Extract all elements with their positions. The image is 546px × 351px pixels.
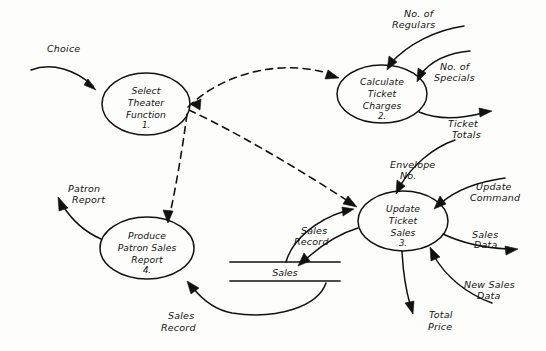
label-new-sales-data-line1: New Sales	[464, 279, 515, 290]
process-1-line3: Function	[126, 109, 166, 120]
process-1-line2: Theater	[128, 97, 166, 108]
process-2-line3: Charges	[363, 100, 402, 111]
process-3-number: 3.	[399, 238, 407, 248]
label-envelope-no: Envelope No.	[390, 159, 439, 181]
process-4-number: 4.	[143, 265, 151, 275]
flow-update-to-store-arrowhead	[298, 253, 310, 266]
label-no-of-specials: No. of Specials	[434, 61, 475, 83]
label-ticket-totals: Ticket Totals	[448, 118, 481, 140]
flow-total-price-arrowhead	[405, 301, 414, 314]
label-total-price-line2: Price	[428, 321, 452, 332]
label-sales-record-report: Sales Record	[161, 310, 198, 333]
flow-update-to-total-price	[402, 251, 414, 314]
process-2-line1: Calculate	[360, 76, 404, 87]
label-ticket-totals-line2: Totals	[452, 129, 481, 140]
process-2-line2: Ticket	[368, 88, 397, 99]
flow-sales-store-to-produce	[187, 281, 326, 315]
data-store-sales-label: Sales	[272, 267, 297, 278]
label-patron-report: Patron Report	[68, 183, 106, 205]
process-select-theater-function[interactable]: Select Theater Function 1.	[102, 73, 190, 135]
control-select-to-calculate	[188, 68, 339, 107]
control-calc-path	[188, 68, 330, 107]
label-patron-report-line1: Patron	[68, 183, 100, 194]
label-sales-record-store-line2: Record	[294, 236, 329, 247]
label-no-of-specials-line2: Specials	[434, 72, 475, 83]
flow-store-to-update-arrowhead	[342, 207, 354, 216]
control-update-path	[189, 110, 348, 201]
process-1-number: 1.	[142, 120, 150, 130]
label-no-of-specials-line1: No. of	[440, 61, 471, 72]
label-envelope-no-line2: No.	[400, 170, 417, 181]
label-sales-record-report-line1: Sales	[168, 310, 194, 321]
label-update-command: Update Command	[470, 181, 521, 203]
label-choice: Choice	[47, 43, 80, 54]
label-sales-data: Sales Data	[472, 229, 502, 250]
label-sales-record-store: Sales Record	[294, 225, 331, 247]
process-4-line3: Report	[131, 254, 163, 265]
flow-choice-to-select	[31, 67, 96, 90]
control-select-to-update	[189, 110, 357, 207]
label-new-sales-data: New Sales Data	[464, 279, 518, 301]
label-no-of-regulars-line2: Regulars	[392, 19, 435, 30]
label-choice-line1: Choice	[47, 43, 80, 54]
process-calculate-ticket-charges[interactable]: Calculate Ticket Charges 2.	[337, 65, 427, 123]
data-store-sales: Sales	[230, 262, 340, 281]
flow-ticket-totals-path	[419, 112, 483, 118]
label-total-price-line1: Total	[429, 309, 453, 320]
control-calc-arrowhead	[325, 70, 339, 79]
label-total-price: Total Price	[428, 309, 456, 332]
process-3-line3: Sales	[391, 227, 416, 238]
label-patron-report-line2: Report	[72, 194, 106, 205]
label-no-of-regulars: No. of Regulars	[392, 8, 437, 30]
flow-new-sales-data-arrowhead	[430, 247, 440, 261]
flow-regulars-path	[391, 26, 464, 63]
process-2-number: 2.	[378, 111, 386, 121]
control-select-to-produce	[163, 114, 187, 223]
process-4-line1: Produce	[128, 230, 166, 241]
flow-sales-data-arrowhead	[505, 246, 518, 255]
label-update-command-line1: Update	[476, 181, 512, 192]
label-sales-record-report-line2: Record	[161, 322, 196, 333]
flow-calculate-to-ticket-totals	[419, 108, 492, 118]
control-return-arrowhead	[190, 99, 201, 110]
flow-total-price-path	[402, 251, 410, 304]
flow-patron-report-arrowhead	[58, 197, 68, 211]
label-update-command-line2: Command	[470, 192, 521, 203]
control-update-arrowhead	[343, 196, 357, 207]
flow-choice-path	[31, 67, 93, 86]
flow-store-to-produce-path	[193, 283, 326, 315]
label-sales-data-line2: Data	[474, 239, 497, 250]
flow-ticket-totals-arrowhead	[479, 108, 492, 117]
flow-patron-report-path	[63, 206, 101, 239]
diagram-canvas: Sales Select Theater Function 1. Calcula…	[0, 0, 546, 351]
label-new-sales-data-line2: Data	[477, 290, 500, 301]
label-envelope-no-line1: Envelope	[390, 159, 435, 170]
label-sales-record-store-line1: Sales	[301, 225, 327, 236]
process-4-line2: Patron Sales	[118, 242, 177, 253]
dfd-svg: Sales Select Theater Function 1. Calcula…	[0, 0, 546, 351]
label-no-of-regulars-line1: No. of	[404, 8, 435, 19]
process-update-ticket-sales[interactable]: Update Ticket Sales 3.	[358, 191, 448, 251]
label-ticket-totals-line1: Ticket	[448, 118, 479, 129]
process-3-line2: Ticket	[389, 215, 418, 226]
process-1-line1: Select	[132, 85, 161, 96]
flow-update-command-arrowhead	[434, 196, 446, 209]
process-3-line1: Update	[386, 203, 420, 214]
process-produce-patron-sales-report[interactable]: Produce Patron Sales Report 4.	[100, 217, 194, 279]
